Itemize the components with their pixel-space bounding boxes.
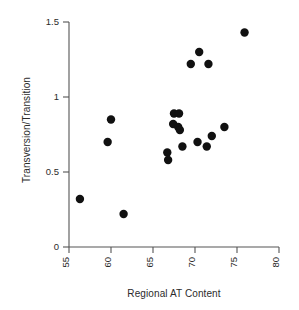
data-point [193, 138, 201, 146]
x-tick-label: 60 [102, 257, 113, 268]
data-point [220, 123, 228, 131]
y-tick-label: 1.5 [46, 16, 59, 27]
plot-canvas: 00.511.5 556065707580 [0, 0, 299, 310]
data-point [76, 195, 84, 203]
x-tick-label: 80 [270, 257, 281, 268]
data-points-group [76, 28, 249, 218]
x-axis-ticks: 556065707580 [60, 247, 281, 268]
y-tick-label: 0.5 [46, 166, 59, 177]
x-tick-label: 65 [144, 257, 155, 268]
data-point [119, 210, 127, 218]
data-point [107, 115, 115, 123]
data-point [240, 28, 248, 36]
x-tick-label: 75 [228, 257, 239, 268]
x-tick-label: 55 [60, 257, 71, 268]
data-point [187, 60, 195, 68]
data-point [103, 138, 111, 146]
y-axis-ticks: 00.511.5 [46, 16, 69, 252]
x-tick-label: 70 [186, 257, 197, 268]
data-point [178, 142, 186, 150]
data-point [195, 48, 203, 56]
data-point [163, 148, 171, 156]
data-point [175, 109, 183, 117]
y-tick-label: 0 [54, 241, 59, 252]
scatter-plot-figure: Transversion/Transition Regional AT Cont… [0, 0, 299, 310]
data-point [204, 60, 212, 68]
data-point [208, 132, 216, 140]
y-tick-label: 1 [54, 91, 59, 102]
data-point [176, 126, 184, 134]
data-point [164, 156, 172, 164]
data-point [203, 142, 211, 150]
